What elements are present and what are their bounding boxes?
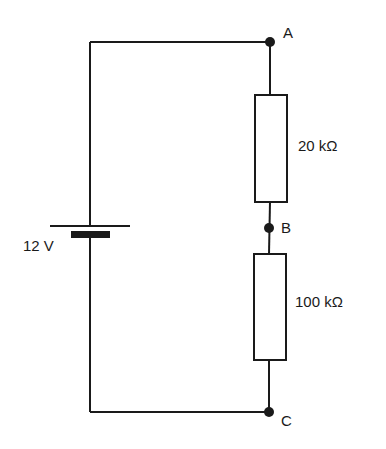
node-a-dot xyxy=(265,37,275,47)
node-b-dot xyxy=(264,223,274,233)
resistor-20k-label: 20 kΩ xyxy=(298,137,338,154)
node-c-label: C xyxy=(281,412,292,429)
circuit-diagram xyxy=(0,0,386,449)
resistor-20k xyxy=(255,95,287,202)
resistor-100k xyxy=(254,254,286,360)
resistor-100k-label: 100 kΩ xyxy=(295,293,343,310)
battery-voltage-label: 12 V xyxy=(23,237,54,254)
node-c-dot xyxy=(264,407,274,417)
battery-negative-plate xyxy=(71,231,110,238)
node-a-label: A xyxy=(283,24,293,41)
node-b-label: B xyxy=(281,219,291,236)
